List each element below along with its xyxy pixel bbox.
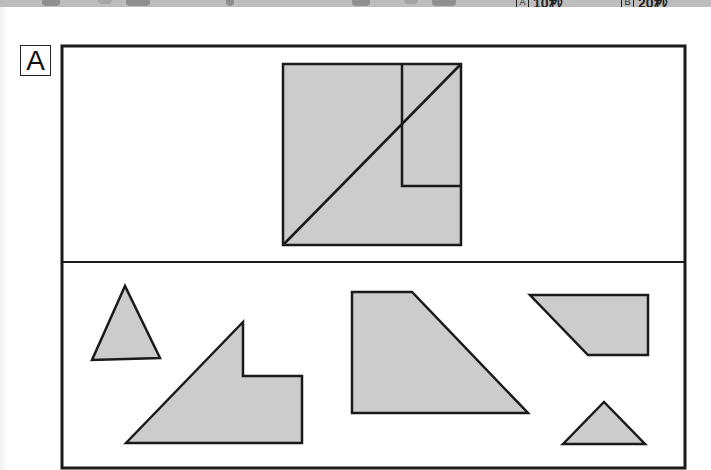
piece-triangle-large[interactable] bbox=[92, 286, 160, 360]
piece-trapezoid[interactable] bbox=[352, 292, 528, 413]
piece-quadrilateral[interactable] bbox=[530, 295, 648, 355]
target-square bbox=[283, 64, 461, 245]
pieces-panel bbox=[92, 286, 648, 444]
puzzle-figure bbox=[0, 0, 711, 470]
piece-triangle-small[interactable] bbox=[563, 402, 645, 444]
